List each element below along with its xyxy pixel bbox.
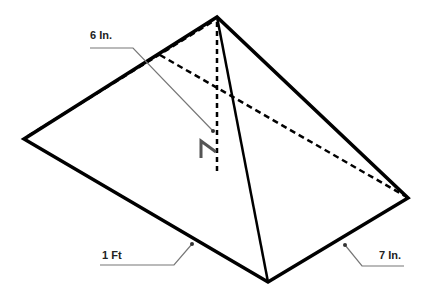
leader-dot-height <box>211 129 215 133</box>
hidden-edges <box>28 22 405 196</box>
leader-dots <box>190 129 347 247</box>
label-height: 6 In. <box>90 29 112 41</box>
hidden-edge-back-right <box>160 55 405 196</box>
leader-dot-base-right <box>343 243 347 247</box>
leader-lines <box>90 48 404 266</box>
leader-dot-base-left <box>190 242 194 246</box>
label-base-left: 1 Ft <box>102 249 122 261</box>
right-angle-marker <box>201 141 216 158</box>
label-base-right: 7 In. <box>379 249 401 261</box>
pyramid-diagram <box>0 0 430 296</box>
